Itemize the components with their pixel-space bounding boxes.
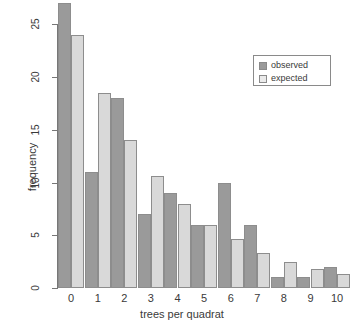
y-tick-5 bbox=[52, 235, 57, 236]
legend-swatch-expected-icon bbox=[259, 75, 267, 83]
y-tick-label-0: 0 bbox=[30, 277, 41, 299]
legend: observed expected bbox=[253, 55, 331, 86]
bar-expected-2 bbox=[124, 140, 137, 288]
bar-expected-5 bbox=[204, 225, 217, 288]
y-tick-20 bbox=[52, 77, 57, 78]
x-tick-label-3: 3 bbox=[139, 292, 163, 304]
y-tick-25 bbox=[52, 24, 57, 25]
bar-observed-5 bbox=[191, 225, 204, 288]
bar-observed-7 bbox=[244, 225, 257, 288]
x-tick-label-1: 1 bbox=[86, 292, 110, 304]
y-tick-0 bbox=[52, 288, 57, 289]
x-axis-label: trees per quadrat bbox=[0, 308, 364, 320]
x-tick-label-4: 4 bbox=[166, 292, 190, 304]
legend-label-expected: expected bbox=[271, 74, 308, 83]
bar-observed-10 bbox=[324, 267, 337, 288]
y-tick-15 bbox=[52, 130, 57, 131]
bar-observed-6 bbox=[218, 183, 231, 289]
bar-observed-8 bbox=[271, 277, 284, 288]
bar-expected-7 bbox=[257, 253, 270, 288]
bar-observed-1 bbox=[85, 172, 98, 288]
bar-expected-1 bbox=[98, 93, 111, 288]
y-tick-label-5: 5 bbox=[30, 224, 41, 246]
bar-expected-4 bbox=[178, 204, 191, 288]
bar-expected-6 bbox=[231, 239, 244, 288]
bar-expected-0 bbox=[71, 35, 84, 288]
bar-observed-9 bbox=[297, 277, 310, 288]
x-tick-label-7: 7 bbox=[245, 292, 269, 304]
x-tick-label-0: 0 bbox=[59, 292, 83, 304]
legend-label-observed: observed bbox=[271, 61, 308, 70]
bar-observed-2 bbox=[111, 98, 124, 288]
bar-observed-0 bbox=[58, 3, 71, 288]
legend-item-observed: observed bbox=[259, 60, 325, 71]
legend-item-expected: expected bbox=[259, 73, 325, 84]
x-tick-label-8: 8 bbox=[272, 292, 296, 304]
bar-expected-8 bbox=[284, 262, 297, 288]
x-tick-label-2: 2 bbox=[112, 292, 136, 304]
bar-expected-3 bbox=[151, 176, 164, 288]
bar-observed-4 bbox=[164, 193, 177, 288]
x-tick-label-9: 9 bbox=[299, 292, 323, 304]
bar-chart: 0510152025 frequency 012345678910 trees … bbox=[0, 0, 364, 334]
y-tick-label-15: 15 bbox=[30, 119, 41, 141]
y-tick-10 bbox=[52, 183, 57, 184]
y-tick-label-20: 20 bbox=[30, 66, 41, 88]
x-tick-label-10: 10 bbox=[325, 292, 349, 304]
bar-expected-9 bbox=[311, 269, 324, 288]
legend-swatch-observed-icon bbox=[259, 62, 267, 70]
bar-observed-3 bbox=[138, 214, 151, 288]
y-axis-label: frequency bbox=[26, 143, 38, 191]
bar-expected-10 bbox=[337, 274, 350, 288]
x-tick-label-6: 6 bbox=[219, 292, 243, 304]
x-tick-label-5: 5 bbox=[192, 292, 216, 304]
y-tick-label-25: 25 bbox=[30, 13, 41, 35]
